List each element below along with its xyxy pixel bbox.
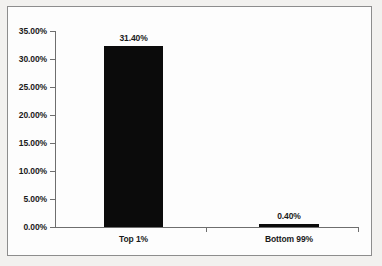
y-axis-line [55,31,56,228]
category-label-bottom-99-percent: Bottom 99% [254,235,324,244]
y-axis-tick [50,59,55,60]
y-axis-tick [50,171,55,172]
y-axis-tick [50,115,55,116]
y-axis-label: 0.00% [0,223,47,232]
x-axis-tick [206,228,207,232]
y-axis-label: 20.00% [0,111,47,120]
y-axis-tick [50,31,55,32]
bar-value-label: 31.40% [104,34,163,43]
x-axis-line [55,227,359,228]
y-axis-label: 5.00% [0,195,47,204]
y-axis-label: 25.00% [0,83,47,92]
chart-frame: 35.00% 30.00% 25.00% 20.00% 15.00% 10.00… [7,6,372,256]
y-axis-tick [50,199,55,200]
y-axis-tick [50,143,55,144]
y-axis-label: 15.00% [0,139,47,148]
plot-area: 35.00% 30.00% 25.00% 20.00% 15.00% 10.00… [8,7,373,257]
bar-value-label: 0.40% [259,212,319,221]
y-axis-label: 35.00% [0,27,47,36]
x-axis-end-cap [358,228,359,232]
category-label-top-1-percent: Top 1% [104,235,163,244]
y-axis-label: 10.00% [0,167,47,176]
bar-top-1-percent [104,46,163,227]
y-axis-tick [50,87,55,88]
bar-bottom-99-percent [259,224,319,227]
y-axis-label: 30.00% [0,55,47,64]
